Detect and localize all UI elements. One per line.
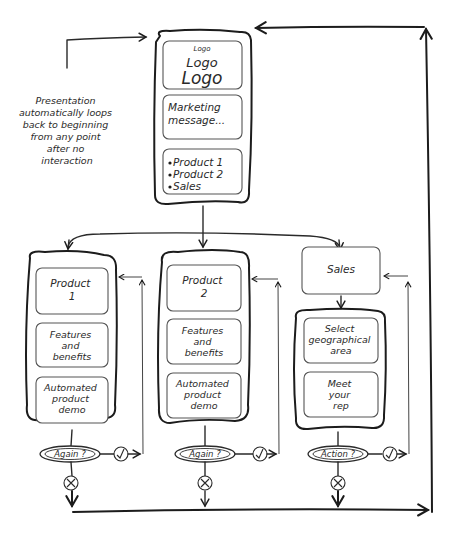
cross-icon[interactable]	[198, 476, 212, 490]
return-arrow-icon	[278, 282, 279, 454]
marketing-text: Marketing message...	[168, 101, 225, 126]
check-icon[interactable]	[253, 447, 267, 461]
column-product-2: Product 2 Features and benefits Automate…	[158, 250, 279, 506]
sales-title: Sales	[327, 263, 355, 275]
note-line: Presentation	[35, 95, 95, 106]
note-line: automatically loops	[19, 107, 112, 118]
cross-icon[interactable]	[331, 476, 345, 490]
column-sales: Sales Select geographical area Meet your…	[294, 247, 409, 506]
menu-item-product-2[interactable]: Product 2	[173, 168, 224, 180]
connector	[71, 462, 72, 476]
loop-arrow-icon	[67, 37, 146, 68]
note-line: after no	[47, 143, 85, 154]
decision-action[interactable]: Action ?	[320, 449, 355, 459]
branch-arrow-icon	[68, 240, 69, 249]
cross-icon[interactable]	[64, 476, 78, 490]
logo-large: Logo	[181, 68, 222, 88]
flow-diagram: Presentation automatically loops back to…	[0, 0, 458, 543]
note-line: back to beginning	[23, 119, 108, 130]
connector	[71, 430, 72, 446]
check-icon[interactable]	[383, 447, 397, 461]
loop-note-text: Presentation automatically loops back to…	[19, 95, 115, 166]
check-icon[interactable]	[114, 447, 128, 461]
bullet-icon	[168, 161, 171, 164]
bullet-icon	[168, 173, 171, 176]
decision-again-2[interactable]: Again ?	[188, 449, 221, 459]
branch-connector	[68, 233, 340, 248]
home-screen: Logo Logo Logo Marketing message... Prod…	[154, 30, 251, 204]
top-loop-arrow-icon	[256, 27, 424, 28]
return-arrow-icon	[408, 282, 409, 454]
return-arrow-icon	[142, 280, 143, 454]
right-loop-arrow-icon	[426, 29, 432, 512]
bullet-icon	[168, 185, 171, 188]
decision-again-1[interactable]: Again ?	[53, 449, 86, 459]
note-line: from any point	[30, 131, 101, 142]
column-product-1: Product 1 Features and benefits Automate…	[26, 251, 143, 506]
menu-item-sales[interactable]: Sales	[173, 180, 201, 192]
menu-item-product-1[interactable]: Product 1	[173, 156, 223, 168]
bottom-loop-arrow-icon	[73, 509, 428, 512]
note-line: interaction	[41, 155, 92, 166]
logo-small: Logo	[194, 45, 211, 53]
loop-note: Presentation automatically loops back to…	[19, 37, 146, 166]
